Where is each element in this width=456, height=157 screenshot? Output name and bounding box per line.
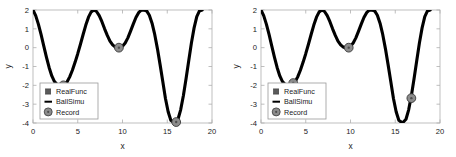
y-tick-label: -4 — [250, 119, 257, 128]
x-tick-label: 5 — [76, 127, 80, 136]
x-tick-label: 20 — [436, 127, 444, 136]
plot-svg: 05101520-4-3-2-1012xyRealFuncBallSimuRec… — [0, 0, 228, 157]
legend-swatch-record-circle-dot — [47, 111, 49, 113]
y-tick-label: -4 — [22, 119, 29, 128]
x-tick-label: 20 — [208, 127, 216, 136]
legend-label: Record — [56, 108, 79, 117]
y-tick-label: 0 — [25, 43, 29, 52]
legend-swatch-realfunc-square — [46, 89, 51, 94]
legend-label: Record — [284, 108, 307, 117]
y-tick-label: -1 — [22, 62, 29, 71]
y-tick-label: 1 — [25, 25, 29, 34]
x-tick-label: 0 — [31, 127, 35, 136]
legend-label: BallSimu — [56, 97, 84, 106]
x-tick-label: 15 — [391, 127, 399, 136]
record-marker-center-dot — [175, 121, 177, 123]
y-tick-label: 0 — [253, 43, 257, 52]
x-axis-title: x — [348, 141, 353, 151]
x-tick-label: 10 — [118, 127, 126, 136]
chart-panel-right: 05101520-4-3-2-1012xyRealFuncBallSimuRec… — [228, 0, 456, 157]
x-tick-label: 0 — [259, 127, 263, 136]
figure-canvas: 05101520-4-3-2-1012xyRealFuncBallSimuRec… — [0, 0, 456, 157]
x-tick-label: 5 — [304, 127, 308, 136]
legend-swatch-record-circle-dot — [275, 111, 277, 113]
chart-panel-left: 05101520-4-3-2-1012xyRealFuncBallSimuRec… — [0, 0, 228, 157]
y-tick-label: 2 — [253, 6, 257, 15]
x-tick-label: 15 — [163, 127, 171, 136]
legend-label: RealFunc — [56, 87, 87, 96]
legend-label: RealFunc — [284, 87, 315, 96]
record-marker-center-dot — [348, 46, 350, 48]
y-tick-label: -2 — [250, 81, 257, 90]
record-marker-center-dot — [410, 97, 412, 99]
y-tick-label: -2 — [22, 81, 29, 90]
y-tick-label: 1 — [253, 25, 257, 34]
x-axis-title: x — [120, 141, 125, 151]
y-axis-title: y — [3, 64, 13, 69]
y-tick-label: -3 — [22, 100, 29, 109]
y-tick-label: 2 — [25, 6, 29, 15]
y-tick-label: -3 — [250, 100, 257, 109]
record-marker-center-dot — [118, 46, 120, 48]
legend-swatch-realfunc-square — [274, 89, 279, 94]
y-axis-title: y — [231, 64, 241, 69]
x-tick-label: 10 — [346, 127, 354, 136]
plot-svg: 05101520-4-3-2-1012xyRealFuncBallSimuRec… — [228, 0, 456, 157]
legend-label: BallSimu — [284, 97, 312, 106]
y-tick-label: -1 — [250, 62, 257, 71]
